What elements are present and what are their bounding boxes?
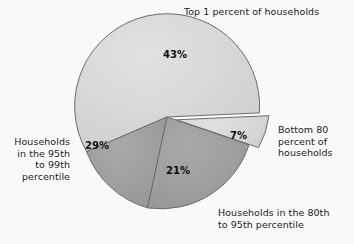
slice-label-p80-to-95: Households in the 80th to 95th percentil…: [218, 207, 329, 230]
slice-label-p95-to-99: Households in the 95th to 99th percentil…: [2, 136, 70, 182]
slice-value-p80-to-95: 21%: [166, 165, 190, 176]
slice-value-top-1-percent: 43%: [163, 49, 187, 60]
pie-chart: Top 1 percent of households Bottom 80 pe…: [0, 0, 354, 244]
slice-value-p95-to-99: 29%: [85, 140, 109, 151]
slice-label-bottom-80-percent: Bottom 80 percent of households: [278, 124, 333, 159]
slice-label-top-1-percent: Top 1 percent of households: [184, 6, 319, 18]
slice-value-bottom-80-percent: 7%: [230, 130, 247, 141]
